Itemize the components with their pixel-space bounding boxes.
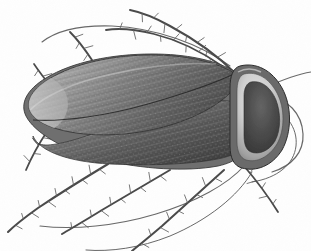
cockroach-illustration-canvas bbox=[0, 0, 311, 251]
cockroach-illustration-figure: Grayscale dorsal illustration of a cockr… bbox=[0, 0, 311, 251]
leg-mid-right-upper-seta bbox=[160, 36, 161, 42]
